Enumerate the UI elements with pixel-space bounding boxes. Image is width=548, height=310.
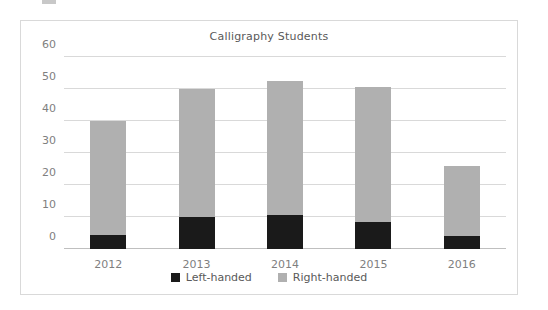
y-tick-label-50: 50 (42, 70, 56, 83)
bar-group-2014[interactable] (267, 81, 303, 249)
legend-entry-right-handed[interactable]: Right-handed (278, 271, 367, 284)
legend-swatch-icon (278, 273, 287, 282)
chart-container: Calligraphy Students 0102030405060 20122… (20, 20, 518, 295)
bar-segment-right-handed-2014[interactable] (267, 81, 303, 215)
y-tick-label-60: 60 (42, 38, 56, 51)
bar-series-layer: 20122013201420152016 (64, 57, 506, 249)
bar-group-2012[interactable] (90, 121, 126, 249)
bar-segment-right-handed-2013[interactable] (179, 89, 215, 217)
bar-segment-left-handed-2015[interactable] (355, 222, 391, 249)
legend-label: Left-handed (186, 271, 252, 284)
legend-swatch-icon (171, 273, 180, 282)
plot-area: 0102030405060 20122013201420152016 (64, 57, 506, 249)
bar-group-2013[interactable] (179, 89, 215, 249)
y-tick-label-30: 30 (42, 134, 56, 147)
chart-title: Calligraphy Students (21, 30, 517, 43)
y-tick-label-10: 10 (42, 198, 56, 211)
legend-label: Right-handed (293, 271, 367, 284)
top-edge-artifact (42, 0, 56, 4)
bar-segment-left-handed-2016[interactable] (444, 236, 480, 249)
x-tick-label-2016: 2016 (444, 258, 480, 271)
chart-legend: Left-handedRight-handed (21, 271, 517, 284)
x-tick-label-2012: 2012 (90, 258, 126, 271)
bar-segment-left-handed-2012[interactable] (90, 235, 126, 249)
bar-segment-right-handed-2015[interactable] (355, 87, 391, 221)
y-tick-label-20: 20 (42, 166, 56, 179)
bar-segment-left-handed-2014[interactable] (267, 215, 303, 249)
x-tick-label-2014: 2014 (267, 258, 303, 271)
y-tick-label-0: 0 (49, 230, 56, 243)
bar-group-2015[interactable] (355, 87, 391, 249)
legend-entry-left-handed[interactable]: Left-handed (171, 271, 252, 284)
bar-group-2016[interactable] (444, 166, 480, 249)
bar-segment-right-handed-2016[interactable] (444, 166, 480, 236)
bar-segment-right-handed-2012[interactable] (90, 121, 126, 235)
x-tick-label-2015: 2015 (355, 258, 391, 271)
bar-segment-left-handed-2013[interactable] (179, 217, 215, 249)
y-tick-label-40: 40 (42, 102, 56, 115)
x-tick-label-2013: 2013 (179, 258, 215, 271)
